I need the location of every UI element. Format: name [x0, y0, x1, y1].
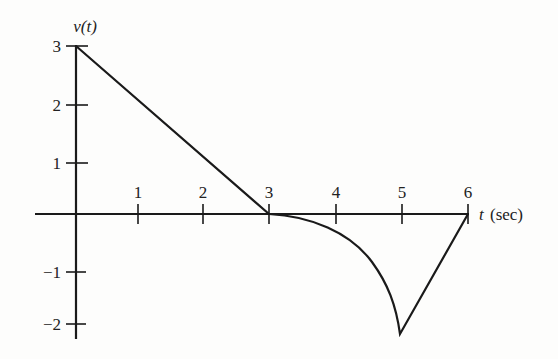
x-axis-variable: t — [479, 205, 485, 224]
y-tick-label: −2 — [43, 315, 61, 334]
x-tick-label: 1 — [134, 183, 143, 202]
y-tick-label: 3 — [53, 37, 62, 56]
x-tick-label: 4 — [332, 183, 341, 202]
plot-area: 1 2 3 4 5 6 3 2 1 −1 −2 v(t) t (sec) — [0, 0, 558, 359]
chart: 1 2 3 4 5 6 3 2 1 −1 −2 v(t) t (sec) — [0, 0, 558, 359]
y-tick-label: 1 — [53, 154, 62, 173]
y-tick-label: −1 — [43, 263, 61, 282]
x-axis-unit: (sec) — [490, 205, 523, 224]
y-axis-label: v(t) — [73, 17, 97, 36]
y-tick-label: 2 — [53, 96, 62, 115]
x-tick-label: 5 — [398, 183, 407, 202]
x-tick-label: 3 — [265, 183, 274, 202]
x-tick-label: 2 — [199, 183, 208, 202]
x-tick-label: 6 — [464, 183, 473, 202]
